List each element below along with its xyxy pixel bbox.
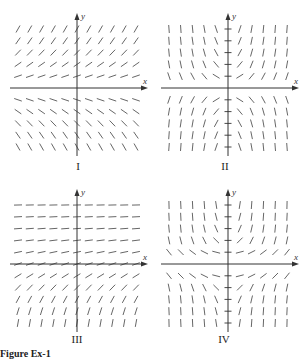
slope-segment — [62, 50, 68, 56]
slope-segment — [262, 61, 264, 69]
slope-segment — [97, 274, 104, 278]
slope-segment — [203, 108, 206, 115]
slope-segment — [134, 26, 138, 33]
slope-segment — [263, 307, 264, 315]
slope-segment — [168, 284, 170, 292]
slope-segment — [169, 143, 170, 151]
slope-segment — [180, 237, 182, 245]
slope-segment — [192, 143, 193, 151]
slope-segment — [51, 121, 57, 127]
slope-segment — [133, 62, 140, 67]
slope-segment — [192, 295, 193, 303]
slope-segment — [239, 143, 242, 151]
slope-segment — [98, 50, 104, 56]
slope-segment — [204, 37, 206, 45]
slope-segment — [134, 296, 138, 303]
slope-segment — [275, 225, 276, 233]
slope-segment — [274, 284, 276, 292]
slope-segment — [14, 240, 22, 241]
slope-segment — [38, 228, 46, 229]
slope-segment — [97, 240, 105, 241]
slope-segment — [16, 144, 20, 151]
slope-segment — [250, 237, 254, 244]
slope-segment — [275, 37, 276, 45]
slope-segment — [85, 274, 92, 278]
slope-segment — [27, 109, 34, 114]
panel-iii: xy — [0, 176, 151, 346]
slope-segment — [263, 295, 264, 303]
panel-ii-label: II — [215, 160, 235, 172]
slope-segment — [238, 296, 241, 303]
slope-segment — [63, 132, 68, 139]
y-axis-label: y — [231, 187, 236, 197]
slope-segment — [97, 109, 104, 114]
slope-segment — [237, 61, 242, 67]
slope-segment — [16, 38, 21, 45]
slope-segment — [27, 50, 33, 56]
slope-segment — [287, 143, 288, 151]
slope-segment — [85, 99, 93, 102]
figure-caption: Figure Ex-1 — [0, 348, 51, 359]
slope-segment — [28, 38, 33, 45]
slope-segment — [98, 132, 103, 139]
slope-segment — [49, 228, 57, 229]
slope-segment — [181, 143, 182, 151]
slope-segment — [28, 26, 32, 33]
slope-segment — [213, 98, 220, 102]
slope-segment — [286, 96, 289, 104]
slope-segment — [263, 143, 264, 151]
slope-segment — [263, 37, 264, 45]
slope-segment — [192, 61, 194, 69]
slope-segment — [16, 26, 20, 33]
slope-segment — [133, 109, 140, 114]
slope-segment — [86, 121, 92, 127]
slope-segment — [191, 284, 194, 292]
slope-segment — [274, 73, 277, 80]
slope-segment — [51, 38, 56, 45]
slope-segment — [121, 50, 127, 56]
panel-iv: xy — [151, 176, 302, 346]
slope-segment — [49, 240, 57, 241]
slope-segment — [286, 108, 287, 116]
slope-segment — [123, 307, 125, 315]
slope-segment — [263, 49, 264, 57]
slope-segment — [38, 75, 46, 78]
slope-segment — [169, 49, 170, 57]
slope-segment — [110, 26, 114, 33]
slope-segment — [274, 61, 276, 69]
slope-segment — [133, 285, 139, 291]
slope-segment — [15, 285, 21, 291]
slope-segment — [239, 201, 240, 209]
slope-segment — [39, 285, 45, 291]
slope-segment — [38, 62, 45, 67]
slope-segment — [287, 25, 288, 33]
x-axis-arrow-icon — [141, 262, 148, 267]
slope-segment — [204, 143, 205, 151]
slope-segment — [263, 225, 264, 233]
slope-segment — [14, 99, 22, 102]
slope-segment — [214, 61, 219, 67]
slope-segment — [87, 296, 91, 303]
slope-segment — [85, 75, 93, 78]
slope-segment — [178, 273, 184, 279]
slope-segment — [238, 49, 242, 56]
slope-segment — [40, 26, 44, 33]
slope-segment — [251, 296, 253, 304]
slope-segment — [201, 250, 208, 254]
slope-segment — [86, 109, 93, 114]
slope-field-figure: xy I xy II xy III xy IV Figure Ex-1 — [0, 0, 302, 362]
slope-segment — [121, 62, 128, 67]
slope-segment — [214, 109, 219, 115]
panel-i-label: I — [68, 160, 88, 172]
slope-segment — [287, 295, 288, 303]
slope-field-plot: xy — [0, 176, 151, 346]
slope-segment — [50, 274, 57, 278]
slope-field-plot: xy — [151, 176, 302, 346]
slope-segment — [14, 75, 22, 78]
slope-segment — [204, 307, 205, 315]
slope-segment — [181, 25, 182, 33]
slope-segment — [110, 144, 114, 151]
slope-segment — [251, 319, 252, 327]
slope-segment — [169, 25, 170, 33]
slope-segment — [132, 99, 140, 102]
